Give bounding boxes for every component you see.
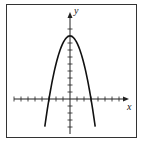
axes: [14, 12, 129, 134]
y-axis-label: y: [74, 5, 78, 16]
plot-area: [0, 0, 145, 145]
x-axis-label: x: [127, 101, 131, 112]
tick-marks: [14, 29, 119, 127]
